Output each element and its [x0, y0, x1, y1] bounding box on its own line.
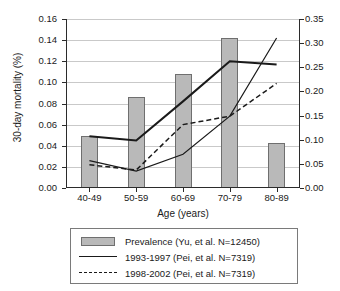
y-tick-label-right: 0.30 [305, 38, 324, 48]
legend-label-1993-1997: 1993-1997 (Pei, et al. N=7319) [125, 252, 255, 263]
y-tick-label-right: 0.20 [305, 86, 324, 96]
plot-frame [66, 19, 300, 188]
plot-area [66, 19, 300, 188]
y-tick-label-right: 0.10 [305, 135, 324, 145]
y-tick-mark-right [300, 116, 304, 117]
y-tick-mark-left [62, 188, 66, 189]
y-tick-mark-right [300, 43, 304, 44]
legend-item-1998-2002: 1998-2002 (Pei, et al. N=7319) [77, 265, 291, 281]
y-tick-label-right: 0.00 [305, 183, 324, 193]
legend-swatch-solid-line-icon [77, 250, 119, 264]
legend-label-1998-2002: 1998-2002 (Pei, et al. N=7319) [125, 268, 255, 279]
y-tick-label-right: 0.05 [305, 159, 324, 169]
y-tick-label-left: 0.16 [39, 14, 58, 24]
legend-label-prevalence: Prevalence (Yu, et al. N=12450) [125, 236, 260, 247]
y-tick-label-left: 0.10 [39, 77, 58, 87]
x-axis-label: Age (years) [66, 208, 300, 219]
y-tick-label-left: 0.02 [39, 162, 58, 172]
x-tick-mark [89, 188, 90, 192]
chart-figure: 30-day mortality (%) 0.000.020.040.060.0… [0, 0, 340, 291]
y-tick-mark-right [300, 19, 304, 20]
x-tick-label: 80-89 [247, 192, 307, 203]
y-tick-mark-right [300, 164, 304, 165]
y-tick-label-left: 0.12 [39, 56, 58, 66]
x-tick-mark [183, 188, 184, 192]
y-tick-label-left: 0.00 [39, 183, 58, 193]
y-tick-label-left: 0.06 [39, 120, 58, 130]
y-tick-label-right: 0.15 [305, 111, 324, 121]
y-tick-label-left: 0.08 [39, 99, 58, 109]
y-tick-mark-right [300, 91, 304, 92]
chart-legend: Prevalence (Yu, et al. N=12450) 1993-199… [70, 228, 298, 284]
y-tick-mark-right [300, 67, 304, 68]
y-tick-mark-right [300, 188, 304, 189]
legend-item-prevalence: Prevalence (Yu, et al. N=12450) [77, 233, 291, 249]
y-tick-label-right: 0.25 [305, 62, 324, 72]
x-tick-mark [277, 188, 278, 192]
x-tick-mark [230, 188, 231, 192]
legend-item-1993-1997: 1993-1997 (Pei, et al. N=7319) [77, 249, 291, 265]
legend-swatch-dashed-line-icon [77, 266, 119, 280]
y-tick-label-right: 0.35 [305, 14, 324, 24]
y-tick-label-left: 0.04 [39, 141, 58, 151]
legend-swatch-bar-icon [77, 234, 119, 248]
x-tick-mark [136, 188, 137, 192]
y-tick-mark-right [300, 140, 304, 141]
y-axis-label: 30-day mortality (%) [12, 28, 23, 168]
y-tick-label-left: 0.14 [39, 35, 58, 45]
